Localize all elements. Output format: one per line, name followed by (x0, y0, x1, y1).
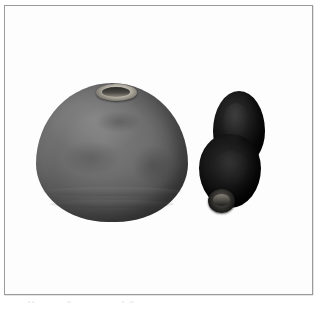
vessel-large-surface-mottle (96, 111, 142, 133)
vessel-large-surface-mottle (62, 141, 120, 175)
vessel-small-highlight (213, 151, 249, 185)
photograph-area (5, 6, 312, 294)
caption-text: the clipped running text line at the pag… (8, 301, 152, 303)
vessel-small-highlight (223, 103, 249, 143)
vessel-large-turning-band (50, 200, 174, 208)
vessel-large (36, 83, 188, 222)
vessel-large-turning-band (43, 187, 181, 196)
plate-frame (4, 5, 313, 295)
vessel-large-mouth-opening (102, 87, 130, 97)
caption-strip: the clipped running text line at the pag… (0, 301, 323, 315)
vessel-small-spout-opening (213, 194, 230, 206)
vessel-small (199, 91, 265, 215)
plate-page: the clipped running text line at the pag… (0, 0, 323, 315)
vessel-large-surface-mottle (132, 145, 174, 185)
